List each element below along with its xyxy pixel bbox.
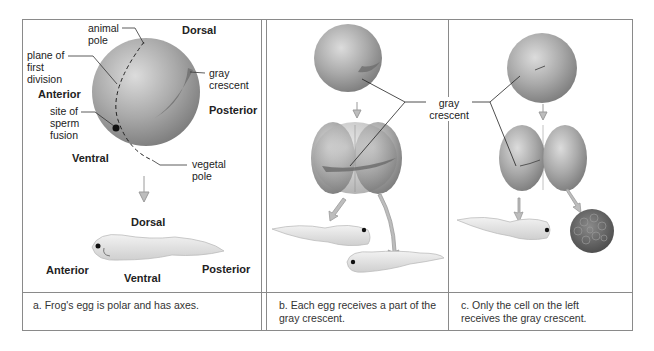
tadpole-panel-b-right [347, 251, 444, 272]
two-cell-panel-c [499, 125, 587, 191]
egg-panel-c-upper [507, 33, 577, 103]
arrow-down-icon [539, 104, 547, 120]
label-ventral-bottom: Ventral [124, 272, 161, 284]
label-animal-pole: animal pole [88, 22, 119, 46]
arrow-down-icon [353, 102, 361, 118]
tadpole-panel-a [92, 235, 224, 261]
egg-panel-b-upper [314, 24, 382, 92]
caption-a: a. Frog's egg is polar and has axes. [33, 299, 199, 312]
label-dorsal-bottom: Dorsal [131, 216, 165, 228]
label-vegetal-pole: vegetal pole [192, 158, 226, 182]
label-plane-of-first-division: plane of first division [27, 49, 64, 85]
label-site-of-sperm-fusion: site of sperm fusion [50, 105, 79, 141]
label-anterior-top: Anterior [38, 88, 81, 100]
label-gray-crescent-a: gray crescent [209, 67, 249, 91]
label-posterior-bottom: Posterior [202, 263, 250, 275]
caption-b: b. Each egg receives a part of the gray … [279, 299, 436, 325]
caption-c: c. Only the cell on the left receives th… [461, 299, 586, 325]
label-gray-crescent-shared: gray crescent [426, 97, 472, 121]
label-dorsal-top: Dorsal [182, 24, 216, 36]
arrow-down-icon [139, 176, 149, 202]
label-ventral-top: Ventral [72, 152, 109, 164]
label-anterior-bottom: Anterior [46, 264, 89, 276]
tadpole-panel-b-left [272, 225, 370, 245]
tadpole-panel-c [457, 217, 550, 239]
label-posterior-top: Posterior [209, 104, 257, 116]
cell-mass-panel-c [570, 209, 614, 253]
arrow-icon [329, 198, 346, 221]
arrow-icon [514, 198, 523, 222]
egg-panel-a [68, 28, 205, 165]
arrow-icon [566, 189, 581, 213]
